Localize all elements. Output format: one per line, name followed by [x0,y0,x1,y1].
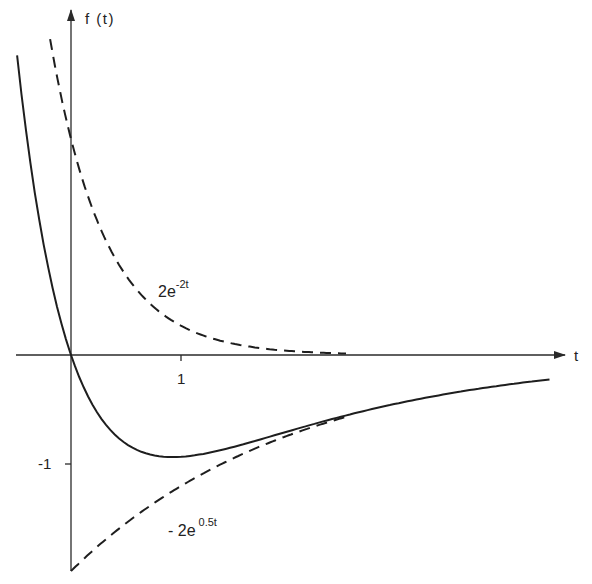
curve-f-of-t [17,55,549,457]
label-2e-neg2t: 2e-2t [158,278,189,300]
chart-canvas: t f (t) 1 -1 2e-2t - 2e0.5t [0,0,592,584]
x-tick-label-1: 1 [177,370,185,387]
label-neg2e-0.5t-sup: 0.5t [199,516,217,528]
y-axis-label: f (t) [85,10,115,27]
label-neg2e-0.5t: - 2e0.5t [168,516,217,539]
curve-2e-neg2t [50,39,346,353]
label-2e-neg2t-sup: -2t [176,278,189,290]
y-tick-label-neg1: -1 [38,455,51,472]
label-neg2e-0.5t-main: - 2e [168,522,196,539]
x-axis-label: t [574,347,579,364]
label-2e-neg2t-main: 2e [158,283,176,300]
curve-neg2e-0.5t [71,417,346,571]
